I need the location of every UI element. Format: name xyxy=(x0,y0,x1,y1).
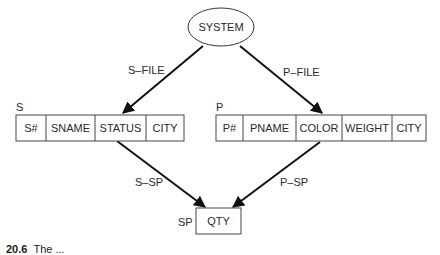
field-status: STATUS xyxy=(100,122,142,134)
figure-caption-text: The ... xyxy=(33,243,64,255)
field-s-num: S# xyxy=(24,122,38,134)
record-s-name: S xyxy=(16,101,23,113)
record-s: S S# SNAME STATUS CITY xyxy=(16,101,184,141)
field-pname: PNAME xyxy=(250,122,289,134)
edge-s-file: S–FILE xyxy=(123,46,203,113)
system-label: SYSTEM xyxy=(198,21,243,33)
field-sname: SNAME xyxy=(51,122,90,134)
record-sp: SP QTY xyxy=(178,208,241,234)
figure-number: 20.6 xyxy=(6,243,27,255)
field-p-city: CITY xyxy=(396,122,422,134)
edge-p-sp: P–SP xyxy=(233,142,320,207)
record-sp-name: SP xyxy=(178,216,193,228)
system-node: SYSTEM xyxy=(188,8,254,46)
record-p-name: P xyxy=(216,101,223,113)
edge-label-s-file: S–FILE xyxy=(128,64,165,76)
field-weight: WEIGHT xyxy=(345,122,389,134)
field-qty: QTY xyxy=(207,215,230,227)
field-color: COLOR xyxy=(299,122,338,134)
field-p-num: P# xyxy=(223,122,237,134)
field-s-city: CITY xyxy=(152,122,178,134)
edge-s-sp: S–SP xyxy=(117,141,205,207)
edge-label-p-sp: P–SP xyxy=(280,176,308,188)
record-p: P P# PNAME COLOR WEIGHT CITY xyxy=(216,101,426,141)
figure-caption: 20.6The ... xyxy=(6,243,65,255)
edge-label-s-sp: S–SP xyxy=(135,176,163,188)
edge-p-file: P–FILE xyxy=(240,46,322,113)
edge-label-p-file: P–FILE xyxy=(283,66,320,78)
